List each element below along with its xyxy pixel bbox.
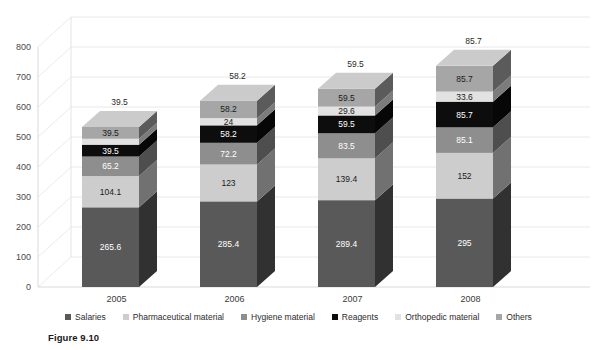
x-axis-tick-label: 2007 [342,294,362,304]
bar-segment-value-label: 265.6 [100,242,122,252]
legend-item-label: Hygiene material [251,312,315,322]
x-axis-tick-label: 2006 [224,294,244,304]
y-axis-tick-label: 500 [16,132,31,142]
legend-swatch-icon [332,314,338,320]
bar-segment-value-label: 39.5 [102,146,119,156]
bar-segment-value-label: 85.7 [456,74,473,84]
bar-segment-side [139,191,157,287]
legend-item[interactable]: Others [496,312,532,322]
bar-segment-value-label: 104.1 [100,187,122,197]
bar-segment-value-label: 39.5 [102,128,119,138]
gridline-depth [38,47,71,77]
bar-top-value-label: 58.2 [229,71,246,81]
y-axis-tick-label: 300 [16,192,31,202]
stacked-column-chart: 0100200300400500600700800265.6104.165.23… [0,0,597,350]
legend-item[interactable]: Hygiene material [241,312,315,322]
bar-segment-value-label: 83.5 [338,141,355,151]
y-axis-tick-label: 400 [16,162,31,172]
bar-column-2008[interactable]: 29515285.185.733.685.785.7 [436,36,511,287]
legend-swatch-icon [496,314,502,320]
legend-item[interactable]: Pharmaceutical material [123,312,224,322]
legend-item-label: Orthopedic material [405,312,479,322]
bar-segment-value-label: 295 [457,238,471,248]
legend-swatch-icon [395,314,401,320]
bar-column-2006[interactable]: 285.412372.258.22458.258.2 [200,71,275,287]
bar-segment-value-label: 59.5 [338,93,355,103]
bar-segment-value-label: 85.7 [456,110,473,120]
y-axis-tick-label: 700 [16,72,31,82]
bar-segment-value-label: 139.4 [336,174,358,184]
bar-segment-side [375,184,393,287]
bar-segment-side [493,183,511,288]
bar-segment-value-label: 65.2 [102,161,119,171]
gridline-depth [38,197,71,227]
bar-column-2005[interactable]: 265.6104.165.239.539.539.5 [82,97,157,287]
bar-segment-value-label: 123 [221,178,235,188]
bar-segment-value-label: 58.2 [220,129,237,139]
bar-segment-value-label: 72.2 [220,149,237,159]
legend-item-label: Salaries [75,312,106,322]
bar-top-value-label: 59.5 [347,59,364,69]
y-axis-tick-label: 600 [16,102,31,112]
bar-segment-value-label: 58.2 [220,104,237,114]
x-axis-tick-label: 2005 [106,294,126,304]
y-axis-tick-label: 0 [26,282,31,292]
y-axis-tick-label: 100 [16,252,31,262]
bar-segment-2005-orthopedic-material[interactable] [82,139,139,145]
gridline-depth [38,167,71,197]
legend-swatch-icon [123,314,129,320]
legend-item[interactable]: Reagents [332,312,378,322]
bar-segment-value-label: 33.6 [456,92,473,102]
gridline-depth [38,77,71,107]
legend-item[interactable]: Orthopedic material [395,312,479,322]
legend-item-label: Pharmaceutical material [133,312,224,322]
bar-segment-value-label: 285.4 [218,239,240,249]
gridline-depth [38,137,71,167]
bar-column-2007[interactable]: 289.4139.483.559.529.659.559.5 [318,59,393,287]
gridline-depth [38,17,71,47]
bar-segment-value-label: 29.6 [338,106,355,116]
figure-caption: Figure 9.10 [48,332,99,343]
bar-top-value-label: 39.5 [111,97,128,107]
bar-segment-value-label: 24 [224,117,234,127]
legend-item-label: Reagents [342,312,378,322]
bar-top-value-label: 85.7 [465,36,482,46]
gridline-depth [38,107,71,137]
y-axis-tick-label: 200 [16,222,31,232]
legend-swatch-icon [65,314,71,320]
bar-segment-value-label: 85.1 [456,135,473,145]
legend-item-label: Others [506,312,532,322]
legend-swatch-icon [241,314,247,320]
bar-segment-value-label: 152 [457,171,471,181]
chart-legend: SalariesPharmaceutical materialHygiene m… [0,308,597,326]
chart-plot-area: 0100200300400500600700800265.6104.165.23… [0,0,597,350]
y-axis-tick-label: 800 [16,42,31,52]
gridline-depth [38,227,71,257]
x-axis-tick-label: 2008 [460,294,480,304]
bar-segment-side [257,185,275,287]
legend-item[interactable]: Salaries [65,312,106,322]
bar-segment-value-label: 59.5 [338,119,355,129]
bar-segment-value-label: 289.4 [336,239,358,249]
